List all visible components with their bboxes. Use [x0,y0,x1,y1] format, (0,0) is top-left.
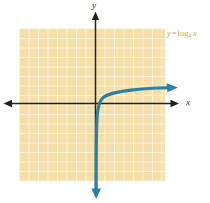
curve-arrow-right [167,83,179,92]
x-axis-arrow-left [4,100,13,107]
y-axis-arrow-up [92,12,99,21]
grid-area [19,29,165,182]
logarithm-graph-figure: y x y=log4x [0,0,210,203]
curve-arrow-down [91,189,101,200]
equation-operator: = [171,28,178,38]
equation-function: log [178,28,189,38]
y-axis-label: y [92,1,96,10]
x-axis-label: x [186,98,190,107]
curve-equation-label: y=log4x [167,29,197,39]
x-axis-arrow-right [171,100,180,107]
equation-argument: x [191,28,196,38]
